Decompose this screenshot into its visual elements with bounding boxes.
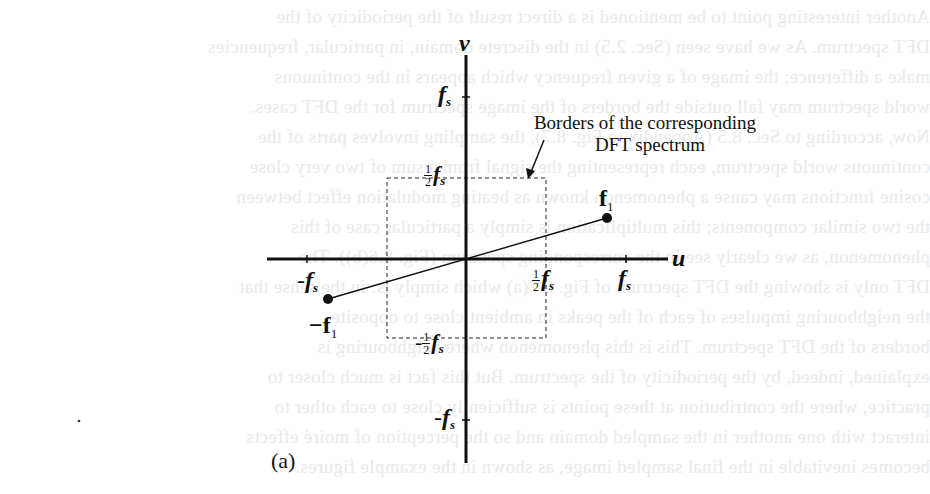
- annotation-arrow-head: [526, 168, 535, 179]
- point-f1: [602, 213, 612, 223]
- v-axis-label: v: [459, 31, 470, 55]
- tick-label-v-neg-half-fs: -12fs: [415, 331, 444, 356]
- dft-border-annotation: Borders of the corresponding DFT spectru…: [505, 112, 785, 156]
- tick-label-v-fs: fs: [438, 82, 451, 108]
- tick-label-u-half-fs: 12fs: [532, 266, 554, 293]
- point-neg-f1: [323, 294, 333, 304]
- point-label-f1: f1: [599, 186, 614, 213]
- annotation-line-1: Borders of the corresponding: [505, 112, 785, 134]
- scan-speck: [78, 420, 81, 423]
- tick-label-u-fs: fs: [618, 266, 631, 292]
- annotation-line-2: DFT spectrum: [505, 134, 785, 156]
- tick-label-v-neg-fs: -fs: [434, 405, 455, 431]
- figure-caption: (a): [271, 450, 295, 472]
- u-axis-label: u: [672, 246, 685, 270]
- tick-label-v-half-fs: 12fs: [424, 163, 445, 188]
- tick-label-u-neg-fs: -fs: [297, 268, 318, 294]
- frequency-plane-diagram: [0, 0, 930, 494]
- point-label-neg-f1: −f1: [309, 313, 337, 340]
